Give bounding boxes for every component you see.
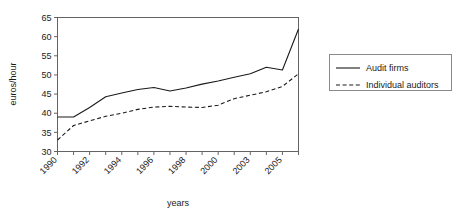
x-axis-tick-labels: 19901992199419961998200020032005: [38, 155, 284, 176]
y-tick-label: 65: [41, 13, 51, 23]
x-tick-label: 1996: [134, 155, 155, 176]
y-tick-label: 40: [41, 108, 51, 118]
y-tick-label: 50: [41, 70, 51, 80]
line-chart: 3035404550556065 19901992199419961998200…: [0, 0, 459, 220]
x-axis-title: years: [167, 198, 190, 208]
y-axis-ticks: [54, 18, 58, 152]
x-tick-label: 2000: [198, 155, 219, 176]
y-tick-label: 30: [41, 147, 51, 157]
x-tick-label: 1990: [38, 155, 59, 176]
legend-label: Audit firms: [366, 63, 409, 73]
x-tick-label: 2003: [230, 155, 251, 176]
y-tick-label: 35: [41, 128, 51, 138]
x-tick-label: 2005: [263, 155, 284, 176]
y-axis-title: euros/hour: [8, 62, 18, 105]
plot-area-frame: [58, 18, 299, 152]
y-tick-label: 55: [41, 51, 51, 61]
x-tick-label: 1998: [166, 155, 187, 176]
chart-container: 3035404550556065 19901992199419961998200…: [0, 0, 459, 220]
x-tick-label: 1994: [102, 155, 123, 176]
x-axis-ticks: [58, 152, 299, 156]
y-tick-label: 60: [41, 32, 51, 42]
y-tick-label: 45: [41, 89, 51, 99]
y-axis-tick-labels: 3035404550556065: [41, 13, 51, 157]
x-tick-label: 1992: [70, 155, 91, 176]
legend-label: Individual auditors: [366, 80, 439, 90]
